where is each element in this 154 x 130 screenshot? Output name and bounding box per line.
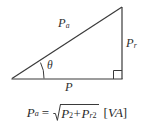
phase-angle-label: θ xyxy=(47,60,53,72)
formula-term1-symbol: P xyxy=(61,106,69,122)
power-triangle-figure: Pa Pr P θ Pa = P2+Pr2 [VA] xyxy=(0,0,154,130)
right-angle-icon xyxy=(114,71,123,80)
reactive-power-label: Pr xyxy=(126,37,137,50)
formula-plus-sign: + xyxy=(74,106,81,122)
formula-lhs-subscript: a xyxy=(35,109,39,118)
reactive-power-symbol: P xyxy=(126,36,134,50)
formula-term1-exponent: 2 xyxy=(69,111,73,120)
formula-term2-symbol: P xyxy=(81,106,89,122)
formula-row: Pa = P2+Pr2 [VA] xyxy=(27,104,127,122)
reactive-power-subscript: r xyxy=(134,41,137,50)
apparent-power-subscript: a xyxy=(66,21,70,30)
apparent-power-symbol: P xyxy=(58,16,66,30)
apparent-power-formula: Pa = P2+Pr2 [VA] xyxy=(0,96,154,130)
formula-equals-sign: = xyxy=(42,105,49,121)
formula-term2-exponent: 2 xyxy=(93,111,97,120)
square-root-group: P2+Pr2 xyxy=(53,104,98,122)
apparent-power-label: Pa xyxy=(58,17,70,30)
formula-units: [VA] xyxy=(104,105,128,121)
real-power-label: P xyxy=(65,81,73,94)
angle-arc xyxy=(41,63,45,79)
radicand-group: P2+Pr2 xyxy=(60,104,98,122)
unit-text: VA xyxy=(108,105,123,120)
unit-close-bracket: ] xyxy=(123,105,127,120)
formula-lhs-symbol: P xyxy=(27,105,35,121)
